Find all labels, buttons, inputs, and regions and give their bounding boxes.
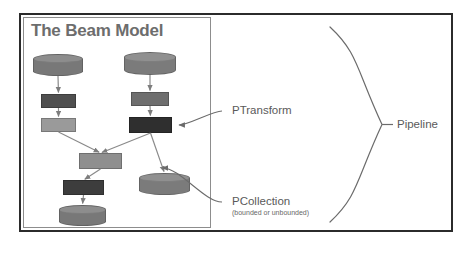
ptransform-xf-left-2	[41, 118, 76, 132]
ptransform-xf-merge	[79, 153, 122, 169]
ptransform-xf-out-left	[63, 180, 104, 195]
pcollection-src-left	[33, 54, 83, 76]
pipeline-label: Pipeline	[397, 118, 438, 130]
pcollection-sink-left	[59, 205, 106, 226]
callout-pcollection-label: PCollection	[232, 195, 309, 208]
callout-ptransform: PTransform	[232, 104, 292, 117]
callout-pcollection-sublabel: (bounded or unbounded)	[232, 208, 309, 217]
beam-model-figure: The Beam Model PTransform PCollection (b…	[0, 0, 459, 257]
pcollection-sink-right	[139, 173, 190, 195]
callout-ptransform-label: PTransform	[232, 104, 292, 117]
page-title: The Beam Model	[31, 21, 163, 41]
callout-pcollection: PCollection (bounded or unbounded)	[232, 195, 309, 217]
pcollection-src-right	[124, 52, 176, 75]
ptransform-xf-left-1	[41, 94, 76, 108]
ptransform-xf-right-1	[131, 92, 169, 106]
ptransform-xf-right-2	[129, 117, 172, 133]
